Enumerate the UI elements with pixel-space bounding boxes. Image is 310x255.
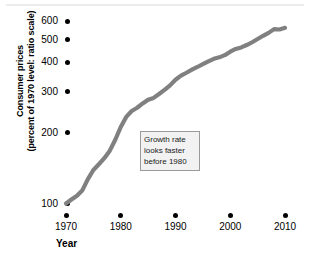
annotation-line-2: looks faster (144, 145, 196, 156)
x-tick-label: 1990 (156, 221, 196, 232)
annotation-line-1: Growth rate (144, 134, 196, 145)
x-axis-title: Year (56, 238, 77, 249)
x-tick-label: 1980 (101, 221, 141, 232)
x-tick-dot-icon (64, 213, 69, 218)
x-tick-dot-icon (173, 213, 178, 218)
x-tick-label: 2000 (210, 221, 250, 232)
x-tick-label: 2010 (265, 221, 305, 232)
x-tick-dot-icon (283, 213, 288, 218)
chart-figure: Consumer prices (percent of 1970 level: … (0, 0, 310, 255)
consumer-prices-line (66, 28, 285, 204)
x-tick-label: 1970 (46, 221, 86, 232)
plot-area (0, 0, 310, 255)
x-tick-dot-icon (228, 213, 233, 218)
annotation-line-3: before 1980 (144, 156, 196, 167)
growth-rate-annotation: Growth rate looks faster before 1980 (140, 131, 200, 171)
